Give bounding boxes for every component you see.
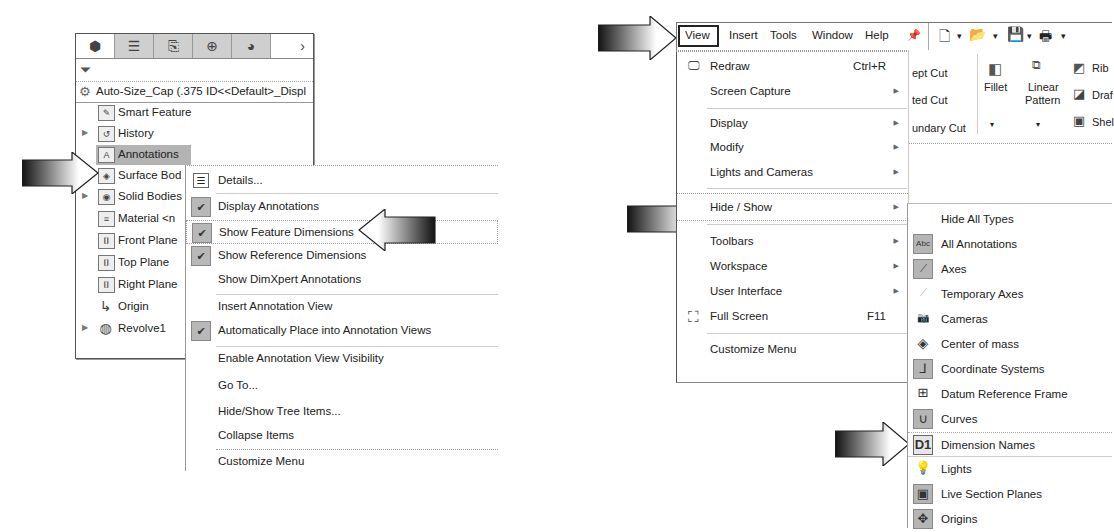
swept-cut-button[interactable]: ept Cut — [912, 67, 947, 79]
hide-show-center-of-mass[interactable]: ◈ Center of mass — [908, 332, 1112, 357]
submenu-arrow-icon: ▶ — [894, 237, 899, 245]
filter-bar[interactable]: ⏷ — [76, 59, 313, 82]
hide-show-datum-reference-frame[interactable]: ⊞ Datum Reference Frame — [908, 382, 1112, 407]
menu-item-label: Collapse Items — [218, 429, 294, 441]
menu-item-label: Hide / Show — [710, 201, 772, 213]
dimxpert-manager-tab[interactable]: ⊕ — [193, 34, 232, 58]
menu-item-label: Redraw — [710, 60, 750, 72]
view-menu-lights-and-cameras[interactable]: Lights and Cameras ▶ — [677, 161, 908, 185]
hide-show-temporary-axes[interactable]: ⟋ Temporary Axes — [908, 282, 1112, 307]
menu-item-hide-show-tree-items[interactable]: Hide/Show Tree Items... — [186, 400, 498, 424]
chevron-down-icon[interactable]: ▾ — [1061, 31, 1066, 41]
menu-item-label: Insert Annotation View — [218, 300, 332, 312]
menu-help[interactable]: Help — [865, 29, 889, 41]
expand-icon[interactable]: ▶ — [82, 128, 88, 137]
tree-item-history[interactable]: ▶ ↺ History — [76, 124, 313, 144]
property-manager-tab[interactable]: ☰ — [115, 34, 154, 58]
menu-item-display-annotations[interactable]: ✔ Display Annotations — [186, 195, 498, 219]
menu-window[interactable]: Window — [812, 29, 853, 41]
display-manager-tab[interactable]: ◕ — [232, 34, 271, 58]
view-menu-customize-menu[interactable]: Customize Menu — [677, 338, 908, 362]
menu-item-auto-place-annotation-views[interactable]: ✔ Automatically Place into Annotation Vi… — [186, 319, 498, 343]
menu-item-label: Coordinate Systems — [941, 363, 1045, 375]
command-manager: ept Cut ted Cut undary Cut ◧ Fillet ▾ ⧉ … — [908, 50, 1112, 144]
feature-manager-tab[interactable]: ⬢ — [76, 34, 115, 58]
draft-icon: ◪ — [1073, 86, 1085, 101]
hide-show-curves[interactable]: ∪ Curves — [908, 407, 1112, 432]
chevron-down-icon[interactable]: ▾ — [990, 120, 994, 129]
chevron-right-icon: › — [300, 38, 305, 54]
hide-show-hide-all-types[interactable]: Hide All Types — [908, 207, 1112, 232]
menu-item-details[interactable]: ☰ Details... — [186, 169, 498, 193]
view-menu-workspace[interactable]: Workspace ▶ — [677, 255, 908, 279]
tree-item-smart-feature[interactable]: ✎ Smart Feature — [76, 103, 313, 123]
rib-button[interactable]: Rib — [1092, 62, 1109, 74]
menu-item-go-to[interactable]: Go To... — [186, 374, 498, 398]
hide-show-axes[interactable]: ⟋ Axes — [908, 257, 1112, 282]
hide-show-coordinate-systems[interactable]: ⅃ Coordinate Systems — [908, 357, 1112, 382]
view-menu-full-screen[interactable]: ⛶ Full Screen F11 — [677, 305, 908, 329]
pin-icon[interactable]: 📌 — [907, 29, 921, 42]
view-menu-user-interface[interactable]: User Interface ▶ — [677, 280, 908, 304]
configuration-manager-tab-icon: ⎘ — [168, 38, 179, 55]
menu-insert[interactable]: Insert — [729, 29, 758, 41]
configuration-manager-tab[interactable]: ⎘ — [154, 34, 193, 58]
menu-item-collapse-items[interactable]: Collapse Items — [186, 424, 498, 448]
menu-item-insert-annotation-view[interactable]: Insert Annotation View — [186, 295, 498, 319]
rib-icon: ◩ — [1073, 60, 1085, 75]
linear-pattern-icon: ⧉ — [1032, 58, 1041, 72]
shell-button[interactable]: Shel — [1092, 116, 1114, 128]
fillet-button[interactable]: Fillet — [984, 81, 1007, 93]
hide-show-origins[interactable]: ✥ Origins — [908, 507, 1112, 532]
print-icon[interactable]: 🖶 — [1039, 26, 1052, 50]
menu-item-show-feature-dimensions[interactable]: ✔ Show Feature Dimensions — [186, 220, 498, 244]
menu-item-show-reference-dimensions[interactable]: ✔ Show Reference Dimensions — [186, 244, 498, 268]
linear-pattern-button[interactable]: Linear — [1028, 81, 1059, 93]
open-document-icon[interactable]: 📂 — [969, 26, 986, 42]
annotations-context-menu: ☰ Details... ✔ Display Annotations ✔ Sho… — [185, 165, 498, 471]
more-tabs-button[interactable]: › — [271, 34, 313, 58]
hide-show-cameras[interactable]: 📷 Cameras — [908, 307, 1112, 332]
view-menu-display[interactable]: Display ▶ — [677, 112, 908, 136]
menu-item-label: Lights and Cameras — [710, 166, 813, 178]
menu-view[interactable]: View — [685, 29, 710, 41]
menu-tools[interactable]: Tools — [770, 29, 797, 41]
chevron-down-icon[interactable]: ▾ — [1027, 31, 1032, 41]
draft-button[interactable]: Draf — [1092, 89, 1113, 101]
lights-icon: 💡 — [913, 459, 933, 479]
chevron-down-icon[interactable]: ▾ — [1036, 120, 1040, 129]
save-icon[interactable]: 💾 — [1007, 26, 1024, 42]
view-menu-hide-show[interactable]: Hide / Show ▶ — [677, 193, 908, 221]
view-menu-screen-capture[interactable]: Screen Capture ▶ — [677, 80, 908, 104]
menu-item-label: Cameras — [941, 313, 988, 325]
chevron-down-icon[interactable]: ▾ — [993, 31, 998, 41]
menu-item-enable-annotation-view-visibility[interactable]: Enable Annotation View Visibility — [186, 347, 498, 371]
display-manager-tab-icon: ◕ — [247, 38, 255, 54]
view-menu-toolbars[interactable]: Toolbars ▶ — [677, 230, 908, 254]
shortcut-label: Ctrl+R — [853, 60, 886, 72]
details-icon: ☰ — [193, 173, 209, 188]
menu-item-customize-menu[interactable]: Customize Menu — [186, 450, 498, 474]
property-manager-tab-icon: ☰ — [128, 38, 141, 54]
callout-arrow-view-menu-icon — [598, 16, 678, 60]
hide-show-dimension-names[interactable]: D1 Dimension Names — [908, 432, 1112, 457]
hide-show-all-annotations[interactable]: Abc All Annotations — [908, 232, 1112, 257]
tree-root-part[interactable]: ⚙ Auto-Size_Cap (.375 ID<<Default>_Displ — [76, 82, 313, 103]
material-icon: ≡ — [98, 211, 115, 227]
hide-show-lights[interactable]: 💡 Lights — [908, 457, 1112, 482]
expand-icon[interactable]: ▶ — [82, 323, 88, 332]
menu-item-show-dimxpert-annotations[interactable]: Show DimXpert Annotations — [186, 268, 498, 292]
boundary-cut-button[interactable]: undary Cut — [912, 122, 966, 134]
lofted-cut-button[interactable]: ted Cut — [912, 94, 947, 106]
shell-icon: ▣ — [1073, 113, 1085, 128]
view-menu-redraw[interactable]: 🖵 Redraw Ctrl+R — [677, 55, 908, 79]
menu-item-label: Customize Menu — [710, 343, 796, 355]
hide-show-live-section-planes[interactable]: ▣ Live Section Planes — [908, 482, 1112, 507]
chevron-down-icon[interactable]: ▾ — [957, 31, 962, 41]
tree-item-label: Front Plane — [118, 234, 177, 246]
view-menu-modify[interactable]: Modify ▶ — [677, 136, 908, 160]
tree-item-annotations[interactable]: A Annotations — [76, 145, 313, 165]
new-document-icon[interactable]: 🗋 — [939, 26, 950, 50]
menu-item-label: Hide All Types — [941, 213, 1014, 225]
checkmark-icon: ✔ — [191, 321, 211, 341]
